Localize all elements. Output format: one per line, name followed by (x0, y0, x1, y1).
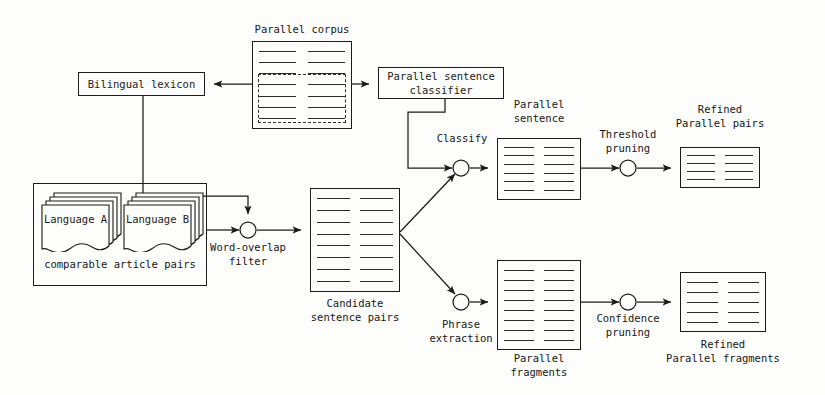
language-a-document-stack[interactable]: Language A (40, 190, 126, 252)
candidate-sentence-pairs-label: Candidate sentence pairs (300, 297, 410, 324)
parallel-fragments-page (497, 260, 581, 350)
candidate-sentence-pairs-page (310, 188, 400, 292)
diagram-canvas: Parallel corpus Bilingual lexicon Parall… (0, 0, 825, 395)
comparable-article-pairs-label: comparable article pairs (33, 258, 207, 271)
node-confidence-pruning[interactable] (620, 294, 636, 310)
word-overlap-filter-label: Word-overlap filter (195, 241, 301, 268)
confidence-pruning-label: Confidence pruning (576, 312, 680, 339)
refined-parallel-pairs-page (680, 147, 760, 188)
parallel-sentence-page (497, 138, 581, 200)
refined-parallel-pairs-label: Refined Parallel pairs (661, 103, 779, 130)
refined-parallel-fragments-label: Refined Parallel fragments (655, 338, 791, 365)
language-a-label: Language A (42, 213, 109, 225)
node-word-overlap-filter[interactable] (240, 222, 256, 238)
language-b-label: Language B (124, 213, 191, 225)
threshold-pruning-label: Threshold pruning (578, 128, 678, 155)
parallel-fragments-label: Parallel fragments (495, 352, 583, 379)
edge-candidate-to-classify (400, 174, 455, 232)
node-classify[interactable] (453, 160, 469, 176)
bilingual-lexicon-box[interactable]: Bilingual lexicon (78, 72, 205, 96)
node-threshold-pruning[interactable] (620, 160, 636, 176)
edge-candidate-to-phrase (400, 234, 455, 294)
parallel-sentence-label: Parallel sentence (495, 98, 583, 125)
refined-parallel-fragments-page (680, 272, 766, 332)
parallel-sentence-classifier-box[interactable]: Parallel sentence classifier (378, 67, 504, 99)
parallel-corpus-label: Parallel corpus (252, 23, 352, 36)
node-phrase-extraction[interactable] (453, 294, 469, 310)
parallel-corpus-page (252, 41, 352, 129)
